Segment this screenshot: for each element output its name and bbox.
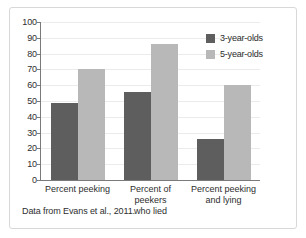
y-tick-mark — [37, 133, 40, 134]
legend-label: 5-year-olds — [220, 49, 263, 59]
y-tick-label: 100 — [13, 18, 37, 27]
y-tick-label: 90 — [13, 34, 37, 43]
bar — [151, 44, 178, 180]
bar — [197, 139, 224, 180]
x-axis-baseline — [41, 180, 260, 181]
x-axis-label-line: and lying — [187, 195, 260, 206]
y-tick-label: 20 — [13, 144, 37, 153]
y-tick-mark — [37, 69, 40, 70]
x-axis-category-label: Percent peeking — [41, 184, 114, 195]
chart-legend: 3-year-olds5-year-olds — [206, 31, 292, 63]
bar — [124, 92, 151, 180]
x-axis-label-line: Percent of peekers — [114, 184, 187, 206]
y-tick-mark — [37, 180, 40, 181]
bar-group — [124, 22, 178, 180]
chart-figure: 1009080706050403020100 Percent peekingPe… — [9, 7, 297, 229]
bar — [51, 103, 78, 180]
y-tick-mark — [37, 164, 40, 165]
x-axis-label-line: Percent peeking — [187, 184, 260, 195]
x-axis-label-line: Percent peeking — [41, 184, 114, 195]
y-tick-mark — [37, 22, 40, 23]
bar — [224, 85, 251, 180]
y-tick-mark — [37, 117, 40, 118]
legend-label: 3-year-olds — [220, 33, 263, 43]
bar — [78, 69, 105, 180]
y-tick-label: 30 — [13, 129, 37, 138]
legend-swatch-icon — [206, 34, 215, 43]
source-note: Data from Evans et al., 2011. — [22, 206, 135, 216]
y-tick-mark — [37, 85, 40, 86]
y-tick-label: 0 — [13, 176, 37, 185]
y-tick-label: 40 — [13, 113, 37, 122]
y-tick-mark — [37, 54, 40, 55]
y-tick-mark — [37, 148, 40, 149]
x-axis-category-label: Percent peekingand lying — [187, 184, 260, 206]
y-tick-label: 10 — [13, 160, 37, 169]
y-axis-ticks: 1009080706050403020100 — [10, 22, 37, 180]
y-tick-label: 70 — [13, 65, 37, 74]
y-tick-label: 80 — [13, 50, 37, 59]
y-tick-mark — [37, 101, 40, 102]
bar-group — [51, 22, 105, 180]
legend-swatch-icon — [206, 50, 215, 59]
y-tick-mark — [37, 38, 40, 39]
legend-item: 5-year-olds — [206, 47, 292, 61]
legend-item: 3-year-olds — [206, 31, 292, 45]
y-tick-label: 50 — [13, 97, 37, 106]
y-tick-label: 60 — [13, 81, 37, 90]
